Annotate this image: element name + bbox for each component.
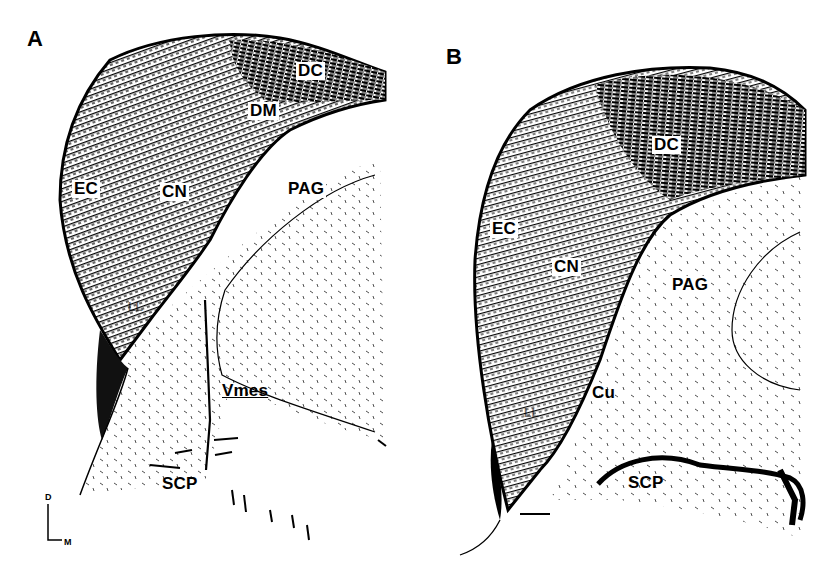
label-scp-a: SCP: [160, 475, 200, 493]
label-cuneiform: Cu: [590, 384, 617, 402]
label-external-cortex-b: EC: [490, 220, 518, 238]
label-dorsal-cortex-b: DC: [652, 136, 681, 154]
label-pag-b: PAG: [670, 276, 710, 294]
label-central-nucleus-a: CN: [160, 183, 189, 201]
panel-a-letter: A: [27, 26, 43, 52]
label-lateral-lemniscus-a: LL: [126, 298, 145, 316]
panel-b-letter: B: [446, 44, 462, 70]
panel-a: A DC DM EC CN PAG LL Vmes SCP D M: [0, 0, 420, 568]
label-pag-a: PAG: [286, 180, 326, 198]
panel-b: B DC EC CN PAG LL Cu SCP: [420, 0, 832, 568]
orientation-medial: M: [64, 537, 72, 547]
label-vmes: Vmes: [220, 382, 270, 400]
label-scp-b: SCP: [626, 474, 666, 492]
label-dorsal-cortex-a: DC: [296, 62, 325, 80]
orientation-dorsal: D: [45, 492, 52, 502]
label-external-cortex-a: EC: [72, 180, 100, 198]
label-lateral-lemniscus-b: LL: [522, 404, 541, 422]
panel-a-drawing: [0, 0, 420, 568]
label-central-nucleus-b: CN: [552, 258, 581, 276]
label-dorsomedial-a: DM: [248, 102, 279, 120]
